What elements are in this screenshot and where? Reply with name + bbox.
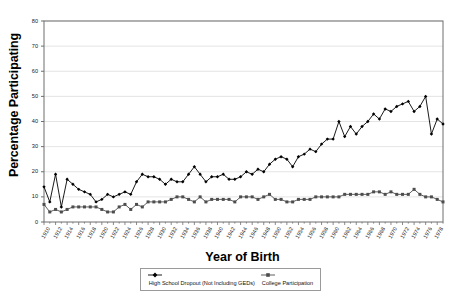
- data-point-marker: [129, 193, 132, 196]
- data-point-marker: [245, 195, 248, 198]
- data-point-marker: [436, 198, 439, 201]
- y-tick-label: 80: [16, 18, 38, 24]
- data-point-marker: [89, 205, 92, 208]
- data-point-marker: [216, 175, 219, 178]
- series-line-2: [44, 189, 443, 212]
- data-point-marker: [147, 200, 150, 203]
- chart-figure: Percentage Participating Year of Birth 0…: [0, 0, 461, 291]
- data-point-marker: [187, 198, 190, 201]
- data-point-marker: [210, 198, 213, 201]
- data-point-marker: [123, 203, 126, 206]
- data-point-marker: [256, 198, 259, 201]
- data-point-marker: [418, 193, 421, 196]
- chart-legend: High School Dropout (Not Including GEDs)…: [0, 268, 461, 291]
- data-point-marker: [239, 195, 242, 198]
- data-point-marker: [100, 208, 103, 211]
- data-point-marker: [389, 190, 392, 193]
- data-point-marker: [274, 198, 277, 201]
- data-point-marker: [158, 200, 161, 203]
- data-point-marker: [407, 193, 410, 196]
- data-point-marker: [384, 193, 387, 196]
- data-point-marker: [413, 188, 416, 191]
- data-point-marker: [262, 195, 265, 198]
- y-tick-label: 40: [16, 118, 38, 124]
- y-axis-title: Percentage Participating: [7, 5, 21, 205]
- legend-entry-1: High School Dropout (Not Including GEDs): [148, 271, 255, 288]
- data-point-marker: [326, 195, 329, 198]
- data-point-marker: [228, 198, 231, 201]
- y-tick-label: 70: [16, 43, 38, 49]
- data-point-marker: [430, 132, 433, 135]
- square-marker-icon: [261, 271, 275, 279]
- data-point-marker: [54, 173, 57, 176]
- data-point-marker: [106, 210, 109, 213]
- data-point-marker: [66, 208, 69, 211]
- data-point-marker: [285, 200, 288, 203]
- series-line-1: [44, 96, 443, 207]
- data-point-marker: [42, 185, 45, 188]
- data-point-marker: [442, 200, 445, 203]
- data-point-marker: [77, 205, 80, 208]
- y-tick-label: 0: [16, 219, 38, 225]
- data-point-marker: [48, 200, 51, 203]
- data-point-marker: [424, 195, 427, 198]
- data-point-marker: [337, 195, 340, 198]
- data-point-marker: [291, 200, 294, 203]
- data-point-marker: [60, 205, 63, 208]
- data-point-marker: [164, 200, 167, 203]
- x-axis-title: Year of Birth: [40, 250, 445, 264]
- data-point-marker: [378, 190, 381, 193]
- y-tick-label: 10: [16, 193, 38, 199]
- data-point-marker: [83, 190, 86, 193]
- data-point-marker: [233, 200, 236, 203]
- y-tick-label: 60: [16, 68, 38, 74]
- data-point-marker: [366, 193, 369, 196]
- data-point-marker: [54, 208, 57, 211]
- legend-entry-2: College Participation: [261, 271, 313, 288]
- y-tick-label: 30: [16, 143, 38, 149]
- data-point-marker: [401, 102, 404, 105]
- legend-label: High School Dropout (Not Including GEDs): [149, 280, 255, 286]
- data-point-marker: [268, 193, 271, 196]
- data-point-marker: [129, 208, 132, 211]
- data-point-marker: [152, 200, 155, 203]
- data-point-marker: [117, 193, 120, 196]
- data-point-marker: [141, 205, 144, 208]
- data-point-marker: [112, 195, 115, 198]
- data-point-marker: [279, 155, 282, 158]
- y-tick-label: 50: [16, 93, 38, 99]
- data-point-marker: [118, 205, 121, 208]
- data-point-marker: [181, 195, 184, 198]
- data-point-marker: [332, 195, 335, 198]
- data-point-marker: [372, 190, 375, 193]
- data-point-marker: [430, 195, 433, 198]
- data-point-marker: [176, 195, 179, 198]
- diamond-marker-icon: [148, 271, 162, 279]
- plot-area: [0, 0, 461, 291]
- data-point-marker: [95, 205, 98, 208]
- data-point-marker: [43, 203, 46, 206]
- data-point-marker: [280, 198, 283, 201]
- data-point-marker: [83, 205, 86, 208]
- data-point-marker: [123, 190, 126, 193]
- data-point-marker: [395, 193, 398, 196]
- data-point-marker: [309, 198, 312, 201]
- data-point-marker: [175, 180, 178, 183]
- data-point-marker: [401, 193, 404, 196]
- data-point-marker: [251, 195, 254, 198]
- data-point-marker: [314, 195, 317, 198]
- data-point-marker: [216, 198, 219, 201]
- data-point-marker: [204, 200, 207, 203]
- data-point-marker: [233, 178, 236, 181]
- data-point-marker: [60, 210, 63, 213]
- data-point-marker: [337, 120, 340, 123]
- data-point-marker: [297, 198, 300, 201]
- data-point-marker: [349, 193, 352, 196]
- data-point-marker: [152, 175, 155, 178]
- data-point-marker: [48, 210, 51, 213]
- data-point-marker: [71, 205, 74, 208]
- data-point-marker: [112, 210, 115, 213]
- legend-label: College Participation: [262, 280, 313, 286]
- data-point-marker: [170, 198, 173, 201]
- data-point-marker: [199, 195, 202, 198]
